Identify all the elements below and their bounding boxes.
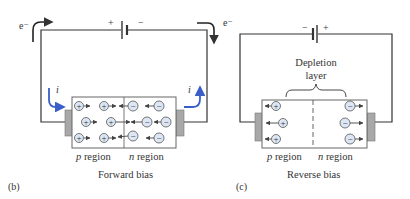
svg-text:−: − [347, 101, 352, 111]
forward-bias-title: Forward bias [98, 169, 153, 180]
current-arrow-right [184, 87, 200, 107]
svg-text:+: + [101, 101, 106, 111]
electron-label-left: e⁻ [19, 20, 29, 31]
panel-reverse-bias: − + Depletion layer + + + − − − Reverse … [236, 22, 392, 193]
current-label-left: i [56, 84, 59, 95]
svg-text:−: − [156, 101, 161, 111]
current-label-right: i [188, 84, 191, 95]
depletion-label-line2: layer [306, 70, 327, 81]
region-label-text: n region [318, 151, 353, 162]
svg-text:−: − [156, 133, 161, 143]
svg-text:+: + [76, 133, 81, 143]
depletion-brace [286, 84, 346, 97]
p-region-label-c: p region [267, 151, 302, 162]
panel-forward-bias: + − e⁻ e⁻ i i + + + + + + − − − [8, 17, 233, 193]
battery-minus-label: − [138, 17, 144, 28]
svg-text:+: + [273, 101, 278, 111]
region-label-text: p region [267, 151, 302, 162]
panel-caption-b: (b) [8, 181, 20, 193]
electron-flow-arrow-right [197, 23, 214, 43]
svg-text:+: + [83, 117, 88, 127]
n-region-label-b: n region [129, 151, 164, 162]
svg-text:−: − [163, 117, 168, 127]
svg-text:+: + [76, 101, 81, 111]
battery-symbol [313, 25, 317, 43]
svg-text:+: + [108, 117, 113, 127]
right-metal-contact [176, 110, 184, 136]
svg-text:−: − [130, 131, 135, 141]
svg-text:−: − [342, 118, 347, 128]
battery-plus-label: + [108, 17, 114, 28]
battery-minus-label: − [302, 22, 308, 33]
svg-text:+: + [101, 133, 106, 143]
battery-plus-label: + [323, 22, 329, 33]
reverse-bias-title: Reverse bias [287, 169, 340, 180]
svg-text:+: + [280, 118, 285, 128]
n-region-label-c: n region [318, 151, 353, 162]
svg-text:−: − [130, 101, 135, 111]
electron-flow-arrow-left [33, 22, 52, 42]
p-region-label-b: p region [76, 151, 111, 162]
right-metal-contact [367, 113, 375, 141]
electron-label-right: e⁻ [223, 17, 233, 28]
svg-text:−: − [347, 134, 352, 144]
region-label-text: n region [129, 151, 164, 162]
battery-symbol [122, 21, 127, 39]
svg-text:−: − [144, 117, 149, 127]
panel-caption-c: (c) [236, 181, 247, 193]
depletion-label-line1: Depletion [295, 57, 337, 68]
svg-text:+: + [273, 134, 278, 144]
region-label-text: p region [76, 151, 111, 162]
diode-bias-diagram: + − e⁻ e⁻ i i + + + + + + − − − [0, 0, 410, 199]
